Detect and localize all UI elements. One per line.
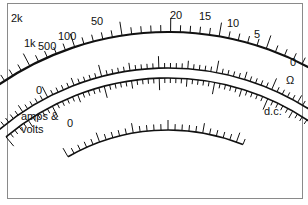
dc-outer-tick [266,83,268,88]
ohms-label-500: 500 [38,40,56,52]
lower-tick [243,139,245,145]
dc-inner-tick [203,81,204,86]
dc-inner-tick [110,85,111,90]
dc-outer-tick [10,115,13,119]
dc-outer-tick [233,71,234,76]
ohms-tick [82,37,84,44]
lower-tick [223,132,225,138]
dc-outer-tick [222,69,223,74]
dc-outer-tick [298,95,302,102]
lower-tick [210,129,211,135]
dc-outer-tick [61,85,63,90]
lower-tick [139,126,140,132]
ohms-unit: Ω [286,74,294,86]
ohms-label-10: 10 [227,17,239,29]
ohms-label-5: 5 [254,28,260,40]
ohms-tick [266,35,271,48]
dc-inner-tick [239,89,241,97]
lower-tick [91,139,93,145]
dc-outer-tick [272,78,277,89]
dc-inner-tick [230,86,231,91]
ohms-label-15: 15 [199,10,211,22]
dc-outer-tick [245,72,247,80]
lower-tick [104,134,106,140]
ohms-label-2k: 2k [11,12,23,24]
dc-outer-tick [261,80,263,85]
lower-tick [111,132,113,138]
ohms-tick [219,23,221,37]
dc-outer-tick [141,64,142,69]
dc-zero-label: 0 [36,84,42,96]
dc-outer-tick [199,65,200,70]
ohms-tick [141,26,142,33]
ohms-tick [101,32,103,39]
ohms-tick [18,65,21,71]
dc-inner-tick [256,94,258,99]
dc-inner-tick [15,130,18,134]
ohms-tick [248,36,250,43]
dc-outer-tick [123,67,124,72]
dc-inner-tick [120,83,121,88]
lower-tick [78,145,81,150]
ohms-label-50: 50 [91,15,103,27]
lower-tick [125,129,126,135]
dc-inner-arc [6,78,308,137]
dc-inner-tick [261,96,263,101]
dc-outer-tick [205,66,206,71]
dc-outer-tick [228,70,229,75]
ohms-tick [302,58,305,64]
dc-inner-tick [57,104,59,108]
dc-inner-tick [285,108,287,112]
dc-outer-tick [135,65,136,70]
dc-inner-tick [6,137,14,146]
dc-inner-tick [126,82,127,87]
dc-outer-tick [239,73,240,78]
dc-outer-tick [303,101,306,105]
meter-dial: 2k 1k 500 100 50 20 15 10 5 0 Ω 0 amps &… [0,0,308,205]
lower-tick [236,133,239,142]
ohms-tick [45,51,48,57]
dc-inner-tick [304,120,307,124]
dc-outer-tick [282,90,284,94]
ohms-tick [284,49,287,55]
dc-outer-tick [89,75,90,80]
ohms-tick [238,34,240,41]
dc-outer-tick [277,87,279,92]
ohms-tick [23,54,29,66]
dc-inner-tick [289,111,293,118]
dc-outer-tick [211,67,212,72]
dc-inner-tick [208,81,209,86]
lower-zero-label: 0 [67,117,73,129]
dc-outer-tick [256,78,258,83]
ohms-tick [111,30,112,37]
ohms-tick [1,75,5,81]
dc-inner-tick [224,85,225,90]
dc-outer-tick [15,111,18,115]
dc-outer-tick [56,88,58,93]
dc-outer-tick [67,83,69,88]
ohms-label-100: 100 [58,30,76,42]
dc-inner-tick [93,89,94,94]
dc-inner-tick [62,101,64,106]
lower-tick [189,125,190,131]
dc-inner-tick [300,117,303,121]
dc-inner-tick [73,97,75,102]
ohms-label-20: 20 [170,9,182,21]
dc-outer-tick [78,79,80,84]
dc-outer-tick [83,77,85,82]
lower-tick [203,123,205,133]
dc-outer-tick [71,78,74,85]
dc-left-label-2: volts [21,123,44,135]
ohms-tick [92,35,94,42]
dc-outer-tick [129,63,130,71]
lower-tick [216,130,217,136]
dc-outer-tick [293,95,295,99]
dc-inner-tick [198,80,199,85]
dc-inner-tick [104,86,107,98]
ohms-tick [35,55,38,61]
ohms-tick [9,70,13,76]
lower-tick [118,130,119,136]
dc-inner-tick [235,87,236,92]
ohms-tick [63,44,65,51]
dc-inner-tick [83,93,85,98]
